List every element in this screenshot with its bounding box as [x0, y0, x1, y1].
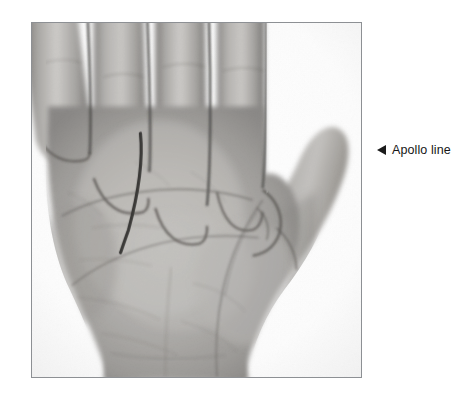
- palm-photo-frame: [31, 22, 362, 378]
- left-triangle-icon: [377, 145, 386, 155]
- apollo-line-annotation: Apollo line: [377, 143, 451, 157]
- film-grain-overlay: [32, 23, 361, 377]
- palm-photograph: [32, 23, 361, 377]
- annotation-label: Apollo line: [392, 143, 451, 157]
